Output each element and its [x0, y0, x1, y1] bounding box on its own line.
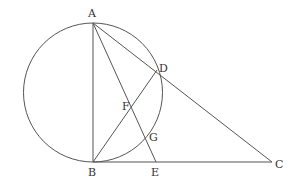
- segment-AE: [93, 23, 156, 162]
- segment-BD: [93, 70, 157, 162]
- label-G: G: [149, 131, 158, 144]
- label-B: B: [88, 166, 96, 179]
- geometry-diagram: A B C D E F G: [0, 0, 299, 187]
- label-D: D: [159, 62, 168, 75]
- label-A: A: [87, 7, 97, 20]
- label-C: C: [275, 158, 283, 171]
- segment-AC: [93, 23, 272, 162]
- label-E: E: [151, 166, 159, 179]
- label-F: F: [122, 100, 130, 113]
